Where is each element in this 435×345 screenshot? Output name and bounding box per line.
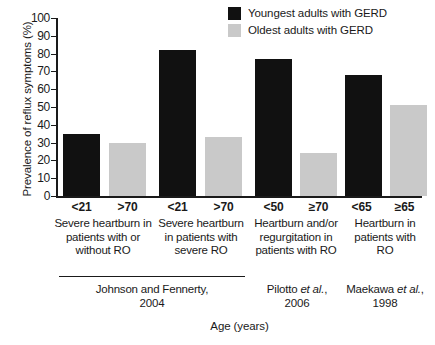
x-axis-title: Age (years) (57, 320, 422, 332)
y-tick-50: 50 (20, 101, 50, 113)
bar-group-2 (153, 18, 249, 196)
y-tick-70: 70 (20, 65, 50, 77)
bar-youngest-group-1 (63, 134, 100, 196)
citation-3-year: 1998 (373, 297, 398, 309)
citation-2-etal: et al. (300, 283, 324, 295)
citation-2: Pilotto et al., 2006 (249, 282, 345, 310)
y-tick-20: 20 (20, 154, 50, 166)
group-caption-1: Severe heartburn in patients with or wit… (51, 217, 155, 258)
bar-youngest-group-4 (345, 75, 382, 196)
y-tick-100: 100 (20, 12, 50, 24)
y-tick-60: 60 (20, 83, 50, 95)
bar-chart: Youngest adults with GERD Oldest adults … (0, 0, 435, 345)
citation-2-comma: , (324, 283, 327, 295)
citation-3-etal: et al. (397, 283, 421, 295)
citation-1-author: Johnson and Fennerty, (96, 283, 209, 295)
citation-3: Maekawa et al., 1998 (345, 282, 425, 310)
group-caption-2: Severe heartburn in patients with severe… (153, 217, 249, 258)
citation-1: Johnson and Fennerty, 2004 (59, 282, 245, 310)
bar-oldest-group-4 (390, 105, 427, 196)
x-tick-group-2-old: >70 (199, 200, 248, 214)
x-tick-group-1-young: <21 (57, 200, 106, 214)
study-citations: Johnson and Fennerty, 2004 Pilotto et al… (57, 276, 422, 318)
bar-oldest-group-1 (109, 143, 146, 196)
bar-oldest-group-3 (300, 153, 337, 196)
bar-group-4 (341, 18, 422, 196)
y-tick-0: 0 (20, 190, 50, 202)
x-axis-tick-labels: <21 >70 <21 >70 <50 ≥70 <65 ≥65 (57, 200, 422, 216)
citation-2-year: 2006 (285, 297, 310, 309)
y-tick-80: 80 (20, 48, 50, 60)
x-tick-group-3-young: <50 (249, 200, 298, 214)
plot-area (57, 18, 422, 196)
group-caption-4: Heartburn in patients with RO (347, 217, 423, 258)
y-tick-30: 30 (20, 137, 50, 149)
citation-rule-1 (59, 276, 245, 277)
citation-1-year: 2004 (140, 297, 165, 309)
bar-youngest-group-3 (255, 59, 292, 196)
x-axis-group-captions: Severe heartburn in patients with or wit… (57, 217, 422, 269)
x-axis-line (56, 196, 422, 198)
y-tick-90: 90 (20, 30, 50, 42)
bar-oldest-group-2 (205, 137, 242, 196)
group-caption-3: Heartburn and/or regurgitation in patien… (247, 217, 345, 258)
y-axis-tick-labels: 100 90 80 70 60 50 40 30 20 10 0 (20, 18, 50, 196)
x-tick-group-2-young: <21 (153, 200, 202, 214)
x-tick-group-4-young: <65 (339, 200, 384, 214)
y-tick-10: 10 (20, 172, 50, 184)
x-tick-group-4-old: ≥65 (382, 200, 427, 214)
bar-youngest-group-2 (159, 50, 196, 196)
bar-group-3 (249, 18, 341, 196)
bar-group-1 (57, 18, 153, 196)
citation-2-author: Pilotto (267, 283, 298, 295)
y-tick-40: 40 (20, 119, 50, 131)
citation-3-author: Maekawa (346, 283, 394, 295)
x-tick-group-1-old: >70 (103, 200, 152, 214)
citation-3-comma: , (421, 283, 424, 295)
x-tick-group-3-old: ≥70 (294, 200, 343, 214)
